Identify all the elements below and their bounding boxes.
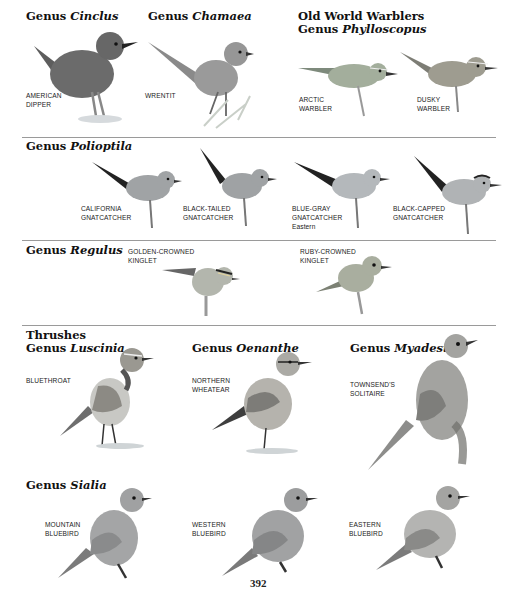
section-divider bbox=[22, 240, 496, 241]
heading-genus-polioptila: Genus Polioptila bbox=[26, 140, 132, 153]
heading-genus-chamaea: Genus Chamaea bbox=[148, 10, 252, 23]
label-black-capped-gnatcatcher: BLACK-CAPPEDGNATCATCHER bbox=[393, 204, 445, 222]
label-black-tailed-gnatcatcher: BLACK-TAILEDGNATCATCHER bbox=[183, 204, 233, 222]
label-blue-gray-gnatcatcher: BLUE-GRAYGNATCATCHEREastern bbox=[292, 204, 342, 231]
mountain-bluebird-illustration bbox=[56, 484, 152, 580]
wrentit-illustration bbox=[146, 30, 256, 130]
townsends-solitaire-illustration bbox=[366, 334, 478, 474]
section-divider bbox=[22, 137, 496, 138]
label-arctic-warbler: ARCTICWARBLER bbox=[299, 95, 332, 113]
heading-old-world-warblers: Old World WarblersGenus Phylloscopus bbox=[298, 10, 426, 36]
golden-crowned-kinglet-illustration bbox=[162, 262, 242, 318]
label-american-dipper: AMERICANDIPPER bbox=[26, 91, 62, 109]
label-dusky-warbler: DUSKYWARBLER bbox=[417, 95, 450, 113]
dusky-warbler-illustration bbox=[400, 50, 502, 116]
heading-genus-cinclus: Genus Cinclus bbox=[26, 10, 118, 23]
eastern-bluebird-illustration bbox=[376, 484, 472, 574]
american-dipper-illustration bbox=[30, 24, 140, 124]
bluethroat-illustration bbox=[58, 346, 158, 450]
page-number: 392 bbox=[250, 577, 267, 589]
heading-genus-regulus: Genus Regulus bbox=[26, 244, 123, 257]
section-divider bbox=[22, 325, 496, 326]
label-wrentit: WRENTIT bbox=[145, 91, 176, 100]
label-california-gnatcatcher: CALIFORNIAGNATCATCHER bbox=[81, 204, 131, 222]
western-bluebird-illustration bbox=[222, 484, 318, 578]
label-western-bluebird: WESTERNBLUEBIRD bbox=[192, 520, 226, 538]
ruby-crowned-kinglet-illustration bbox=[316, 254, 394, 318]
northern-wheatear-illustration bbox=[208, 350, 314, 454]
black-capped-gnatcatcher-illustration bbox=[412, 156, 504, 236]
